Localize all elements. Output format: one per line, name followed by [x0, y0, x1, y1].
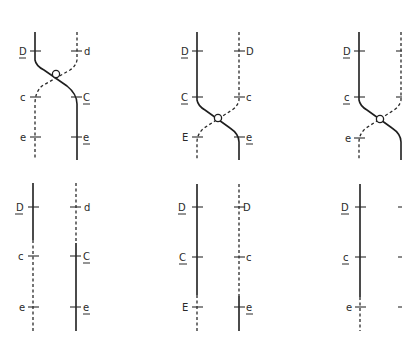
locus-label: e [346, 302, 352, 313]
chromatid-dashed [359, 32, 401, 160]
locus-label: C [181, 92, 188, 103]
panel-top-3: D c e [343, 32, 402, 160]
locus-label: D [243, 202, 251, 213]
locus-label: D [343, 46, 351, 57]
locus-label: e [20, 132, 26, 143]
locus-label: e [19, 302, 25, 313]
panel-bottom-1: D c e d C e [15, 183, 90, 331]
crossover-point-icon [214, 114, 221, 121]
chromatid-solid [359, 32, 401, 160]
locus-label: D [246, 46, 254, 57]
crossover-diagram: D c e d C e D C E D c e [0, 0, 402, 351]
locus-label: d [84, 46, 90, 57]
locus-label: D [16, 202, 24, 213]
locus-label: D [178, 202, 186, 213]
locus-label: c [20, 92, 26, 103]
crossover-point-icon [52, 70, 59, 77]
locus-label: d [84, 202, 90, 213]
locus-label: C [83, 251, 90, 262]
locus-label: e [345, 133, 351, 144]
locus-label: E [182, 302, 188, 313]
locus-label: e [83, 132, 89, 143]
locus-label: c [246, 92, 252, 103]
chromatid-solid [35, 32, 77, 160]
locus-label: E [182, 132, 188, 143]
locus-label: e [83, 302, 89, 313]
locus-label: D [181, 46, 189, 57]
locus-label: e [246, 132, 252, 143]
panel-bottom-2: D C E D c e [178, 184, 253, 331]
locus-label: c [343, 252, 349, 263]
chromatid-dashed [35, 32, 77, 160]
locus-label: D [19, 46, 27, 57]
chromatid-dashed [197, 32, 239, 160]
locus-label: c [246, 252, 252, 263]
locus-label: C [83, 92, 90, 103]
locus-label: c [18, 251, 24, 262]
panel-bottom-3: D c e [341, 184, 402, 331]
panel-top-1: D c e d C e [19, 32, 90, 160]
chromatid-solid [197, 32, 239, 160]
locus-label: D [341, 202, 349, 213]
locus-label: e [246, 302, 252, 313]
locus-label: c [344, 92, 350, 103]
locus-label: C [179, 252, 186, 263]
panel-top-2: D C E D c e [181, 32, 254, 160]
crossover-point-icon [376, 115, 383, 122]
